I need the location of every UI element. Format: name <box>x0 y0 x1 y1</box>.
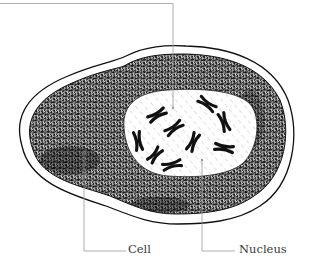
cell-label: Cell <box>128 244 151 256</box>
nucleus <box>124 89 257 176</box>
nucleus-label: Nucleus <box>239 244 287 256</box>
cell-diagram: Cell Nucleus <box>0 0 311 276</box>
cell-illustration <box>0 0 311 276</box>
